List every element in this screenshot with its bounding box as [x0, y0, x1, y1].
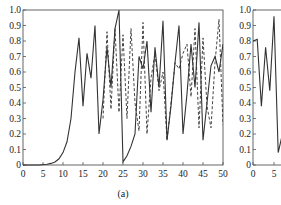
panel-a-y-tick-label: 0.9 — [9, 21, 21, 31]
panel-a-y-tick-label: 0.6 — [9, 67, 21, 77]
panel-b-y-tick-label: 0.2 — [239, 129, 251, 139]
chart-canvas: 00.10.20.30.40.50.60.70.80.91.0 05101520… — [0, 0, 281, 205]
panel-a-x-tick-label: 45 — [198, 169, 208, 179]
panel-a-caption: (a) — [117, 188, 128, 200]
panel-b-y-tick-label: 0.9 — [239, 21, 251, 31]
panel-a-x-tick-label: 40 — [178, 169, 188, 179]
panel-a-x-tick-label: 15 — [78, 169, 88, 179]
panel-a-y-tick-label: 0.1 — [9, 145, 21, 155]
panel-a-y-tick-label: 0.8 — [9, 36, 21, 46]
panel-a-y-axis: 00.10.20.30.40.50.60.70.80.91.0 — [9, 5, 26, 170]
panel-a-x-tick-label: 30 — [138, 169, 148, 179]
panel-a-y-tick-label: 0.2 — [9, 129, 21, 139]
panel-b-y-tick-label: 0.5 — [239, 83, 251, 93]
panel-b-x-tick-label: 5 — [272, 169, 277, 179]
panel-b-y-axis: 00.10.20.30.40.50.60.70.80.91.0 — [239, 5, 256, 170]
solid-series-line — [23, 10, 223, 165]
panel-b-y-tick-label: 1.0 — [239, 5, 251, 15]
panel-b-solid-series-line — [253, 16, 281, 152]
panel-a-y-tick-label: 0.5 — [9, 83, 21, 93]
panel-b-y-tick-label: 0.1 — [239, 145, 251, 155]
panel-a-x-tick-label: 5 — [41, 169, 46, 179]
panel-a-chart: 00.10.20.30.40.50.60.70.80.91.0 05101520… — [9, 5, 228, 200]
panel-a-y-tick-label: 0.4 — [9, 98, 21, 108]
panel-a-y-tick-label: 0.3 — [9, 114, 21, 124]
panel-b-y-tick-label: 0.4 — [239, 98, 251, 108]
panel-b-y-tick-label: 0.7 — [239, 52, 251, 62]
panel-b-y-tick-label: 0.8 — [239, 36, 251, 46]
panel-a-x-tick-label: 0 — [21, 169, 26, 179]
panel-a-y-tick-label: 0.7 — [9, 52, 21, 62]
panel-a-y-tick-label: 1.0 — [9, 5, 21, 15]
panel-a-x-tick-label: 20 — [98, 169, 108, 179]
panel-a-x-tick-label: 25 — [118, 169, 128, 179]
panel-a-x-tick-label: 35 — [158, 169, 168, 179]
panel-b-x-tick-label: 0 — [251, 169, 256, 179]
panel-b-y-tick-label: 0.6 — [239, 67, 251, 77]
panel-a-x-tick-label: 10 — [58, 169, 68, 179]
panel-b-chart: 00.10.20.30.40.50.60.70.80.91.0 05 — [239, 5, 281, 179]
panel-b-y-tick-label: 0.3 — [239, 114, 251, 124]
panel-a-x-tick-label: 50 — [218, 169, 228, 179]
